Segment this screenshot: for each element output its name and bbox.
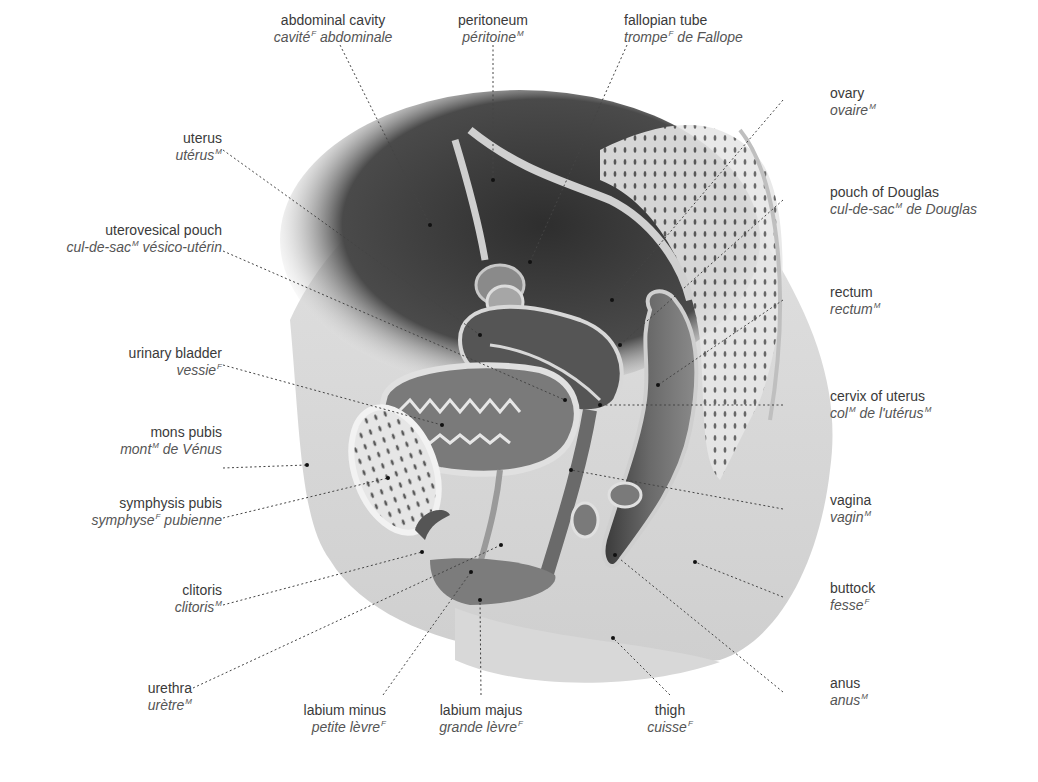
label-ovary: ovary ovaireM: [830, 85, 876, 119]
label-fallopian-tube: fallopian tube trompeF de Fallope: [624, 12, 743, 46]
label-thigh: thigh cuisseF: [640, 702, 700, 736]
label-uterovesical-pouch: uterovesical pouch cul-de-sacM vésico-ut…: [20, 222, 222, 256]
label-uterus: uterus utérusM: [60, 130, 222, 164]
label-cervix-of-uterus: cervix of uterus colM de l'utérusM: [830, 388, 931, 422]
label-buttock: buttock fesseF: [830, 580, 875, 614]
label-symphysis-pubis: symphysis pubis symphyseF pubienne: [40, 495, 222, 529]
label-anus: anus anusM: [830, 675, 868, 709]
label-peritoneum: peritoneum péritoineM: [443, 12, 543, 46]
label-abdominal-cavity: abdominal cavity cavitéF abdominale: [258, 12, 408, 46]
label-urethra: urethra urètreM: [90, 680, 192, 714]
label-rectum: rectum rectumM: [830, 284, 880, 318]
label-vagina: vagina vaginM: [830, 492, 871, 526]
label-mons-pubis: mons pubis montM de Vénus: [60, 424, 222, 458]
label-pouch-of-douglas: pouch of Douglas cul-de-sacM de Douglas: [830, 184, 977, 218]
label-labium-minus: labium minus petite lèvreF: [270, 702, 386, 736]
label-urinary-bladder: urinary bladder vessieF: [60, 345, 222, 379]
label-clitoris: clitoris clitorisM: [100, 582, 222, 616]
label-labium-majus: labium majus grande lèvreF: [428, 702, 534, 736]
